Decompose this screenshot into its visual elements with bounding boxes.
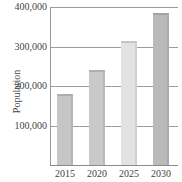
bar-2030: [153, 13, 169, 165]
x-tick-2030: 2030: [146, 168, 176, 179]
bar-2020: [89, 70, 105, 165]
y-tick-300000: 300,000: [15, 42, 48, 52]
bar-2015: [57, 94, 73, 165]
y-tick-100000: 100,000: [15, 121, 48, 131]
x-tick-2020: 2020: [82, 168, 112, 179]
bar-2025: [121, 41, 137, 165]
x-tick-2015: 2015: [50, 168, 80, 179]
x-tick-2025: 2025: [114, 168, 144, 179]
y-axis: [50, 7, 51, 165]
x-axis: [50, 165, 178, 166]
y-tick-400000: 400,000: [15, 2, 48, 12]
gridline-400000: [50, 7, 178, 8]
y-axis-label: Population: [11, 62, 22, 122]
